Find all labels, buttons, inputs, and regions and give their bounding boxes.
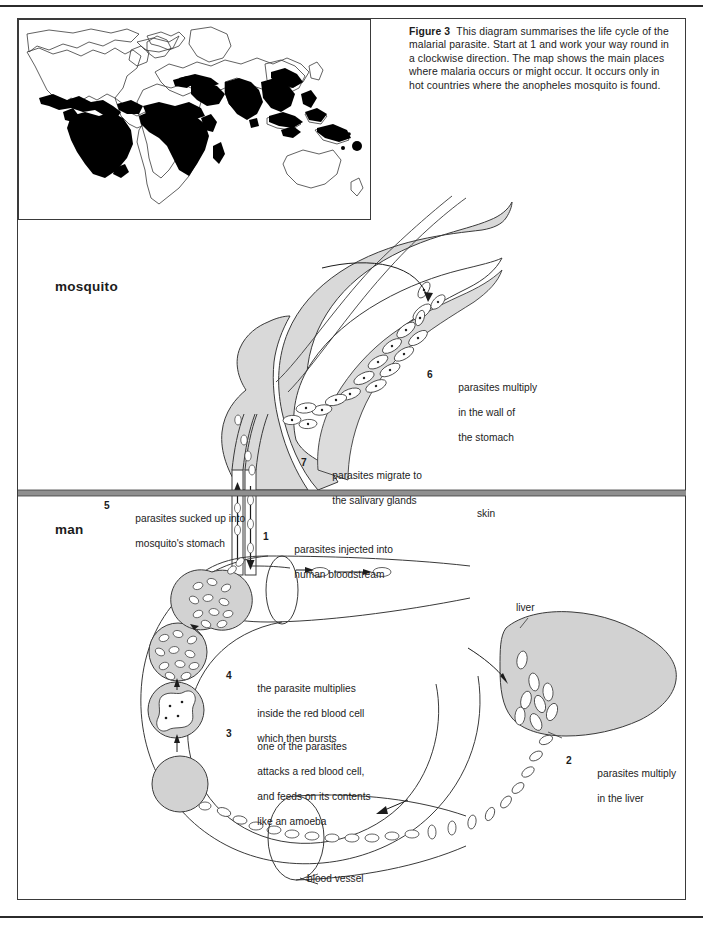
step-1-line-1: parasites injected into	[294, 544, 393, 555]
section-label-mosquito: mosquito	[55, 281, 118, 294]
step-1-line-2: human bloodstream	[294, 569, 384, 580]
step-number-5: 5	[104, 500, 110, 513]
anatomy-label-liver: liver	[516, 602, 535, 615]
step-label-4: 4 the parasite multiplies inside the red…	[226, 645, 364, 784]
step-number-1: 1	[263, 531, 269, 544]
step-label-2: 2 parasites multiply in the liver	[566, 730, 676, 843]
section-label-skin: skin	[477, 508, 495, 521]
step-label-5: 5 parasites sucked up into mosquito's st…	[104, 475, 245, 588]
step-3-line-3: and feeds on its contents	[257, 791, 370, 802]
liver	[468, 612, 676, 736]
red-blood-cell-multiplying-1	[149, 623, 207, 681]
step-3-line-4: like an amoeba	[257, 816, 326, 827]
step-6-line-3: the stomach	[458, 432, 514, 443]
step-2-line-1: parasites multiply	[597, 768, 676, 779]
step-6-line-1: parasites multiply	[458, 382, 537, 393]
section-label-man: man	[55, 524, 84, 537]
step-4-line-1: the parasite multiplies	[257, 683, 356, 694]
step-number-2: 2	[566, 755, 572, 768]
red-blood-cell-intact	[152, 756, 208, 812]
step-4-line-3: which then bursts	[257, 733, 336, 744]
step-label-7: 7 parasites migrate to the salivary glan…	[301, 432, 422, 545]
step-4-line-2: inside the red blood cell	[257, 708, 364, 719]
anatomy-label-blood-vessel: blood vessel	[307, 873, 364, 886]
red-blood-cell-infected	[148, 682, 204, 738]
step-2-line-2: in the liver	[597, 793, 643, 804]
figure-page: Figure 3 This diagram summarises the lif…	[0, 0, 703, 929]
step-7-line-2: the salivary glands	[332, 495, 416, 506]
step-number-7: 7	[301, 457, 307, 470]
step-7-line-1: parasites migrate to	[332, 470, 421, 481]
step-5-line-1: parasites sucked up into	[135, 513, 245, 524]
step-5-line-2: mosquito's stomach	[135, 538, 225, 549]
step-label-6: 6 parasites multiply in the wall of the …	[427, 344, 537, 483]
step-6-line-2: in the wall of	[458, 407, 515, 418]
step-number-4: 4	[226, 670, 232, 683]
step-number-6: 6	[427, 369, 433, 382]
